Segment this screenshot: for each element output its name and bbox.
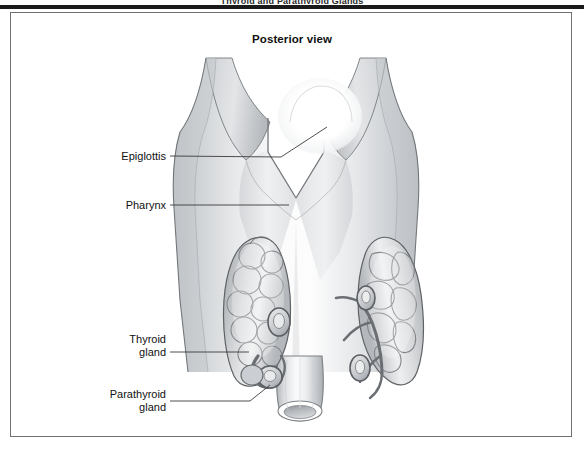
- label-pharynx: Pharynx: [78, 199, 166, 212]
- label-epiglottis: Epiglottis: [78, 150, 166, 163]
- label-thyroid-gland: Thyroid gland: [78, 333, 166, 358]
- anatomical-illustration: [0, 0, 584, 451]
- label-thyroid-gland-line1: Thyroid: [78, 333, 166, 346]
- figure-plate: Thyroid and Parathyroid Glands Posterior…: [0, 0, 584, 451]
- label-thyroid-gland-line2: gland: [78, 346, 166, 359]
- epiglottis-structure: [278, 78, 362, 154]
- label-parathyroid-gland: Parathyroid gland: [70, 388, 166, 413]
- label-parathyroid-gland-line2: gland: [70, 401, 166, 414]
- label-parathyroid-gland-line1: Parathyroid: [70, 388, 166, 401]
- leader-line-parathyroid-gland: [170, 385, 270, 401]
